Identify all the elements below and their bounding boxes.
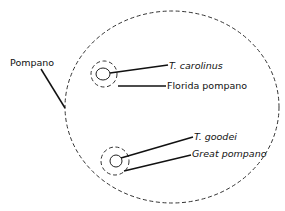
pompano-leader-line [41,69,65,108]
pompano-outer-ellipse [65,11,279,203]
t-goodei-label: T. goodei [194,131,237,142]
t-goodei-leader-line [121,137,193,158]
florida-pompano-label: Florida pompano [167,80,247,91]
florida-pompano-dashed-circle [91,61,117,87]
pompano-set-diagram: Pompano T. carolinus Florida pompano T. … [0,0,285,211]
t-carolinus-solid-circle [96,68,110,80]
pompano-label: Pompano [10,57,54,68]
great-pompano-label: Great pompano [192,148,267,159]
great-pompano-leader-line [124,155,191,171]
group-great-pompano: T. goodei Great pompano [101,131,267,175]
t-carolinus-label: T. carolinus [169,60,223,71]
t-goodei-solid-circle [110,155,122,167]
group-florida-pompano: T. carolinus Florida pompano [91,60,247,91]
t-carolinus-leader-line [110,65,168,73]
